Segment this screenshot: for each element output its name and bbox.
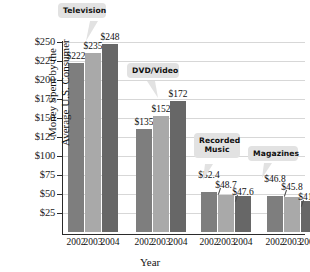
bar-value-label: $172 bbox=[162, 90, 194, 100]
annotation-callout: Television bbox=[58, 3, 106, 18]
x-axis-tick-label: 2004 bbox=[229, 238, 257, 248]
bar bbox=[153, 116, 169, 232]
y-axis-tick-label: $75 bbox=[3, 170, 55, 181]
bar bbox=[235, 196, 251, 232]
bar bbox=[301, 201, 310, 232]
bar bbox=[136, 129, 152, 232]
annotation-callout: Recorded Music bbox=[194, 133, 240, 158]
annotation-callout: DVD/Video bbox=[127, 63, 179, 78]
bar bbox=[201, 192, 217, 232]
x-axis-title: Year bbox=[140, 256, 160, 268]
x-axis-tick-label: 2004 bbox=[96, 238, 124, 248]
plot-area: $222$235$248$135$152$172$52.4$48.7$47.6$… bbox=[62, 42, 305, 232]
x-axis-tick-label: 2004 bbox=[295, 238, 310, 248]
bar bbox=[218, 195, 234, 232]
bar-chart-figure: $222$235$248$135$152$172$52.4$48.7$47.6$… bbox=[0, 0, 310, 272]
y-axis-title-line-1: Money Spent by the bbox=[46, 18, 59, 168]
bar-value-label: $248 bbox=[94, 33, 126, 43]
bar bbox=[267, 196, 283, 232]
x-axis-tick-label: 2004 bbox=[164, 238, 192, 248]
y-axis-tick-mark bbox=[57, 175, 63, 176]
bar bbox=[284, 197, 300, 232]
bar bbox=[102, 44, 118, 232]
y-axis-title-line-2: Average U.S. Consumer bbox=[59, 18, 72, 168]
y-axis-tick-label: $50 bbox=[3, 189, 55, 200]
y-axis-tick-mark bbox=[57, 213, 63, 214]
bar-value-label: $47.6 bbox=[227, 188, 259, 198]
y-axis-tick-mark bbox=[57, 194, 63, 195]
bar bbox=[85, 53, 101, 232]
x-axis-line bbox=[62, 234, 305, 235]
annotation-callout: Magazines bbox=[248, 146, 298, 161]
bar bbox=[170, 101, 186, 232]
y-axis-title: Money Spent by the Average U.S. Consumer bbox=[46, 18, 71, 168]
y-axis-tick-label: $25 bbox=[3, 208, 55, 219]
